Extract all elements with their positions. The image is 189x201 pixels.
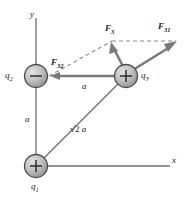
distance-label-diagonal: √2 a xyxy=(70,125,86,134)
y-axis-label: y xyxy=(30,10,34,19)
charge-sphere-q2[interactable] xyxy=(25,65,48,88)
vector-label-F32: F32 xyxy=(51,58,64,69)
hypotenuse-line xyxy=(36,76,126,166)
vector-F31 xyxy=(128,41,177,73)
figure-canvas: y x q1 q2 q3 a a √2 a F32 F3 F31 xyxy=(0,0,189,201)
x-axis-label: x xyxy=(172,156,176,165)
vector-label-F3: F3 xyxy=(105,24,114,35)
charge-label-q1: q1 xyxy=(31,182,39,193)
distance-label-vertical-a: a xyxy=(25,115,30,124)
charge-sphere-q3[interactable] xyxy=(115,65,138,88)
charge-label-q3: q3 xyxy=(141,71,149,82)
distance-label-horizontal-a: a xyxy=(82,82,87,91)
charge-label-q2: q2 xyxy=(5,71,13,82)
vector-F32 xyxy=(50,72,118,80)
vector-label-F31: F31 xyxy=(158,22,171,33)
charge-sphere-q1[interactable] xyxy=(25,155,48,178)
